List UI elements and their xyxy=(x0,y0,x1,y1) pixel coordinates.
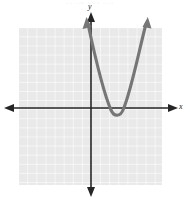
x-axis-arrow-right-icon xyxy=(168,104,178,112)
curve-arrow-right-icon xyxy=(143,17,152,29)
x-axis-label: x xyxy=(179,103,183,111)
graph-figure: to ob bol aoi x y xyxy=(0,0,190,201)
y-axis-label: y xyxy=(88,3,92,11)
x-axis-arrow-left-icon xyxy=(4,104,14,112)
coordinate-plane-plot xyxy=(0,0,190,201)
y-axis-arrow-down-icon xyxy=(87,187,95,197)
